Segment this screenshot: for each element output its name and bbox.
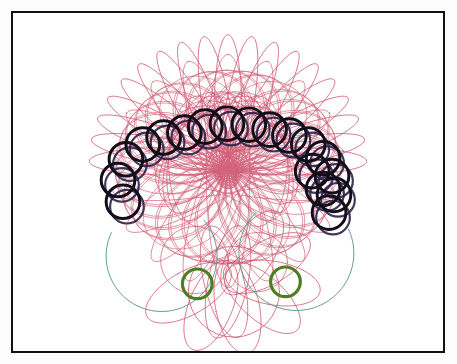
spirograph-artwork <box>13 13 443 351</box>
screenshot-canvas <box>0 0 457 364</box>
picture-frame <box>11 11 445 353</box>
